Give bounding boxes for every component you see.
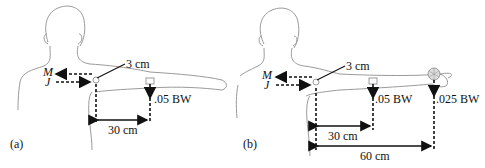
joint-offset-label-a: 3 cm: [126, 57, 150, 71]
weight-label-b2: .025 BW: [436, 92, 480, 106]
weight-label-a: .05 BW: [154, 92, 192, 106]
joint-force-label-a: J: [45, 75, 51, 89]
weight-label-b1: .05 BW: [375, 92, 413, 106]
panel-b: M J 3 cm .05 BW .025 BW 30 cm 60 cm (b): [240, 8, 480, 163]
distance-label-b1: 30 cm: [328, 129, 358, 143]
distance-label-a: 30 cm: [108, 123, 138, 137]
distance-label-b2: 60 cm: [360, 149, 390, 163]
joint-force-label-b: J: [264, 78, 270, 92]
panel-label-a: (a): [10, 137, 23, 151]
panel-a: M J 3 cm .05 BW 30 cm (a): [10, 6, 238, 151]
joint-offset-label-b: 3 cm: [346, 59, 370, 73]
panel-label-b: (b): [243, 137, 257, 151]
shoulder-abduction-diagram: M J 3 cm .05 BW 30 cm (a): [0, 0, 485, 168]
joint-offset-leader-b: [317, 66, 345, 80]
